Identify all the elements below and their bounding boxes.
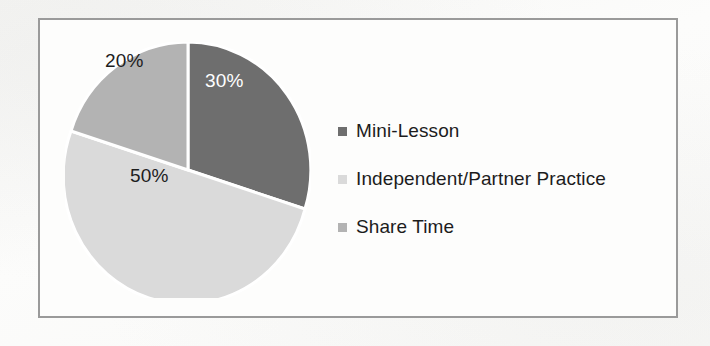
pie-slice-label-independent-partner-practice: 50% <box>130 165 169 187</box>
pie-slice-label-mini-lesson: 30% <box>205 70 244 92</box>
pie-svg <box>65 42 311 298</box>
legend-label-mini-lesson: Mini-Lesson <box>356 121 460 141</box>
chart-legend: Mini-Lesson Independent/Partner Practice… <box>338 120 658 238</box>
legend-swatch-icon-share-time <box>338 223 347 232</box>
pie-slice-label-share-time: 20% <box>105 50 144 72</box>
legend-swatch-icon-independent-partner-practice <box>338 175 347 184</box>
pie-chart: 30% 20% 50% <box>65 42 311 298</box>
chart-frame: 30% 20% 50% Mini-Lesson Independent/Part… <box>38 18 678 318</box>
legend-item-independent-partner-practice[interactable]: Independent/Partner Practice <box>338 168 658 190</box>
legend-label-share-time: Share Time <box>356 217 454 237</box>
legend-item-mini-lesson[interactable]: Mini-Lesson <box>338 120 658 142</box>
legend-item-share-time[interactable]: Share Time <box>338 216 658 238</box>
pie-chart-page: 30% 20% 50% Mini-Lesson Independent/Part… <box>0 0 710 346</box>
legend-label-independent-partner-practice: Independent/Partner Practice <box>356 169 606 189</box>
legend-swatch-icon-mini-lesson <box>338 127 347 136</box>
